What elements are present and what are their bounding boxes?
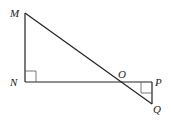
label-n: N bbox=[9, 76, 18, 88]
geometry-diagram: M N O P Q bbox=[0, 0, 171, 124]
label-m: M bbox=[9, 7, 20, 19]
label-o: O bbox=[118, 68, 126, 80]
label-q: Q bbox=[153, 103, 161, 115]
segment-mq bbox=[25, 13, 152, 104]
right-angle-mark-n bbox=[25, 71, 36, 82]
right-angle-mark-p bbox=[141, 82, 152, 93]
label-p: P bbox=[154, 76, 162, 88]
